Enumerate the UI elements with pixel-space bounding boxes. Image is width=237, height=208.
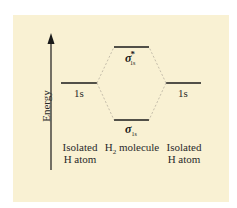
bonding-subscript: 1s xyxy=(131,131,136,137)
correlation-right-up xyxy=(149,47,166,83)
right-1s-label: 1s xyxy=(175,87,191,99)
left-column-line-1: Isolated xyxy=(60,141,100,153)
correlation-right-down xyxy=(149,83,166,120)
left-1s-label: 1s xyxy=(71,87,87,99)
antibonding-label: σ*1s xyxy=(125,49,141,66)
right-column-line-1: Isolated xyxy=(164,141,204,153)
middle-prefix: H xyxy=(105,141,113,153)
bonding-label: σ1s xyxy=(125,122,137,137)
correlation-left-up xyxy=(97,47,114,83)
mo-diagram xyxy=(0,0,237,208)
energy-axis-arrowhead xyxy=(48,33,55,44)
right-column-line-2: H atom xyxy=(164,153,204,165)
left-column-line-2: H atom xyxy=(60,153,100,165)
right-column-label: Isolated H atom xyxy=(164,141,204,165)
energy-axis-label: Energy xyxy=(40,86,52,126)
middle-suffix: molecule xyxy=(116,141,159,153)
correlation-left-down xyxy=(97,83,114,120)
antibonding-star: * xyxy=(130,49,135,59)
antibonding-subscript: 1s xyxy=(130,60,135,66)
middle-column-label: H2 molecule xyxy=(104,141,160,158)
left-column-label: Isolated H atom xyxy=(60,141,100,165)
